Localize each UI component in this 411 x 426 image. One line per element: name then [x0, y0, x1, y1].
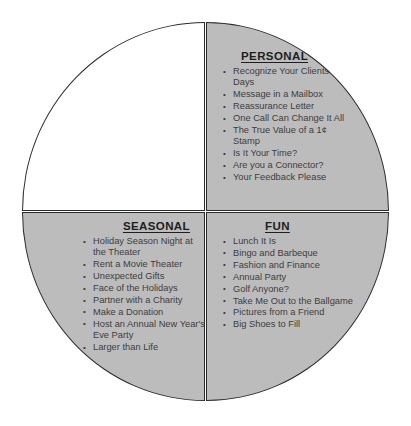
list-item: Reassurance Letter: [223, 101, 348, 112]
list-item: Annual Party: [223, 272, 353, 283]
quadrant-seasonal: SEASONAL Holiday Season Night at the The…: [22, 212, 205, 401]
list-item: Take Me Out to the Ballgame: [223, 296, 353, 307]
list-item: Fashion and Finance: [223, 260, 353, 271]
quadrant-personal-list: Recognize Your Clients' Big Days Message…: [223, 66, 348, 184]
list-item: Bingo and Barbeque: [223, 248, 353, 259]
quadrant-personal-title: PERSONAL: [213, 49, 384, 63]
list-item: Partner with a Charity: [83, 295, 205, 306]
list-item: Lunch It Is: [223, 236, 353, 247]
quadrant-personal-content: PERSONAL Recognize Your Clients' Big Day…: [207, 23, 389, 184]
list-item: The True Value of a 1¢ Stamp: [223, 125, 348, 148]
list-item: Make a Donation: [83, 307, 205, 318]
list-item: Larger than Life: [83, 342, 205, 353]
list-item: Rent a Movie Theater: [83, 259, 205, 270]
list-item: Big Shoes to Fill: [223, 319, 353, 330]
list-item: Is It Your Time?: [223, 148, 348, 159]
quadrant-fun: FUN Lunch It Is Bingo and Barbeque Fashi…: [206, 212, 389, 401]
list-item: One Call Can Change It All: [223, 113, 348, 124]
quadrant-fun-content: FUN Lunch It Is Bingo and Barbeque Fashi…: [207, 213, 389, 331]
list-item: Message in a Mailbox: [223, 89, 348, 100]
list-item: Face of the Holidays: [83, 283, 205, 294]
quadrant-seasonal-list: Holiday Season Night at the Theater Rent…: [83, 236, 205, 354]
list-item: Your Feedback Please: [223, 172, 348, 183]
quadrant-seasonal-content: SEASONAL Holiday Season Night at the The…: [22, 213, 204, 354]
list-item: Pictures from a Friend: [223, 307, 353, 318]
quadrant-top-left-empty: [22, 22, 205, 211]
list-item: Are you a Connector?: [223, 160, 348, 171]
list-item: Golf Anyone?: [223, 284, 353, 295]
quadrant-fun-list: Lunch It Is Bingo and Barbeque Fashion a…: [223, 236, 353, 331]
quadrant-fun-title: FUN: [213, 219, 384, 233]
list-item: Holiday Season Night at the Theater: [83, 236, 205, 259]
list-item: Host an Annual New Year's Eve Party: [83, 319, 205, 342]
list-item: Recognize Your Clients' Big Days: [223, 66, 348, 89]
quadrant-personal: PERSONAL Recognize Your Clients' Big Day…: [206, 22, 389, 211]
quadrant-seasonal-title: SEASONAL: [27, 219, 198, 233]
list-item: Unexpected Gifts: [83, 271, 205, 282]
quadrant-circle-diagram: PERSONAL Recognize Your Clients' Big Day…: [0, 0, 411, 426]
